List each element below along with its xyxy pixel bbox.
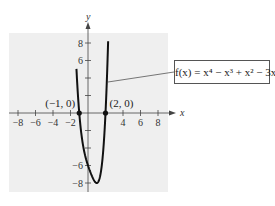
- x-tick-label: −6: [30, 117, 41, 128]
- zero-point: [77, 110, 82, 115]
- y-tick-label: −6: [72, 160, 83, 171]
- y-axis-label: y: [85, 11, 91, 22]
- y-tick-label: 6: [78, 55, 83, 66]
- y-tick-label: 8: [78, 38, 83, 49]
- x-tick-label: −8: [13, 117, 24, 128]
- function-label: f(x) = x⁴ − x³ + x² − 3x − 6: [175, 66, 275, 78]
- function-graph: xy−8−6−4−2468−8−668 (−1, 0)(2, 0): [0, 0, 275, 206]
- x-tick-label: 6: [138, 117, 143, 128]
- x-axis-arrow-icon: [169, 111, 176, 116]
- point-label: (−1, 0): [45, 97, 75, 110]
- x-tick-label: −4: [48, 117, 59, 128]
- x-tick-label: −2: [65, 117, 76, 128]
- y-tick-label: −8: [72, 178, 83, 189]
- x-tick-label: 8: [156, 117, 161, 128]
- zero-point: [103, 110, 108, 115]
- x-axis-label: x: [179, 107, 185, 118]
- x-tick-label: 4: [121, 117, 126, 128]
- y-axis-arrow-icon: [86, 22, 91, 29]
- point-label: (2, 0): [110, 97, 134, 110]
- function-label-box: f(x) = x⁴ − x³ + x² − 3x − 6: [174, 60, 270, 84]
